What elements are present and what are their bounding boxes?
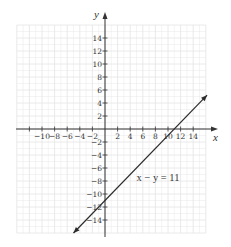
equation-label: x − y = 11 <box>137 172 180 183</box>
x-tick-label: 4 <box>128 132 133 141</box>
x-tick-label: 8 <box>153 132 158 141</box>
x-tick-label: 6 <box>140 132 145 141</box>
y-tick-label: −2 <box>91 138 102 147</box>
y-tick-label: 2 <box>97 112 102 121</box>
x-tick-label: 2 <box>115 132 120 141</box>
x-tick-label: −8 <box>49 132 60 141</box>
y-tick-label: 8 <box>97 73 102 82</box>
x-tick-label: 12 <box>176 132 186 141</box>
axes <box>16 12 218 237</box>
y-tick-label: −8 <box>91 177 102 186</box>
y-axis-label: y <box>93 8 99 20</box>
y-tick-label: 10 <box>92 60 102 69</box>
y-tick-label: −10 <box>86 190 102 199</box>
y-axis-arrow-icon <box>103 12 108 19</box>
y-tick-label: −12 <box>86 203 102 212</box>
x-tick-label: −6 <box>62 132 73 141</box>
coordinate-plane: −10−8−6−4−224681012141412108642−2−4−6−8−… <box>0 0 231 247</box>
y-tick-label: 14 <box>92 34 102 43</box>
x-axis-label: x <box>212 131 218 143</box>
x-tick-label: −10 <box>34 132 50 141</box>
y-tick-label: 4 <box>97 99 102 108</box>
y-tick-label: −4 <box>91 151 102 160</box>
y-tick-label: 12 <box>92 47 102 56</box>
y-tick-label: −6 <box>91 164 102 173</box>
y-tick-label: 6 <box>97 86 102 95</box>
x-tick-label: 14 <box>188 132 198 141</box>
x-tick-label: −4 <box>74 132 85 141</box>
